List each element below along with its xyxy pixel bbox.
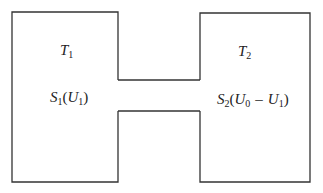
symbol: U (68, 89, 79, 105)
left-entropy-label: S1(U1) (50, 90, 88, 107)
right-temperature-label: T2 (238, 44, 251, 61)
symbol: U (268, 91, 279, 107)
symbol: S (217, 91, 225, 107)
symbol: U (235, 91, 246, 107)
minus-operator: – (250, 91, 268, 107)
paren-close: ) (284, 91, 289, 107)
subscript: 2 (246, 50, 251, 61)
symbol: S (50, 89, 58, 105)
right-entropy-label: S2(U0–U1) (217, 92, 289, 109)
left-temperature-label: T1 (60, 43, 73, 60)
subscript: 1 (68, 49, 73, 60)
paren-close: ) (83, 89, 88, 105)
